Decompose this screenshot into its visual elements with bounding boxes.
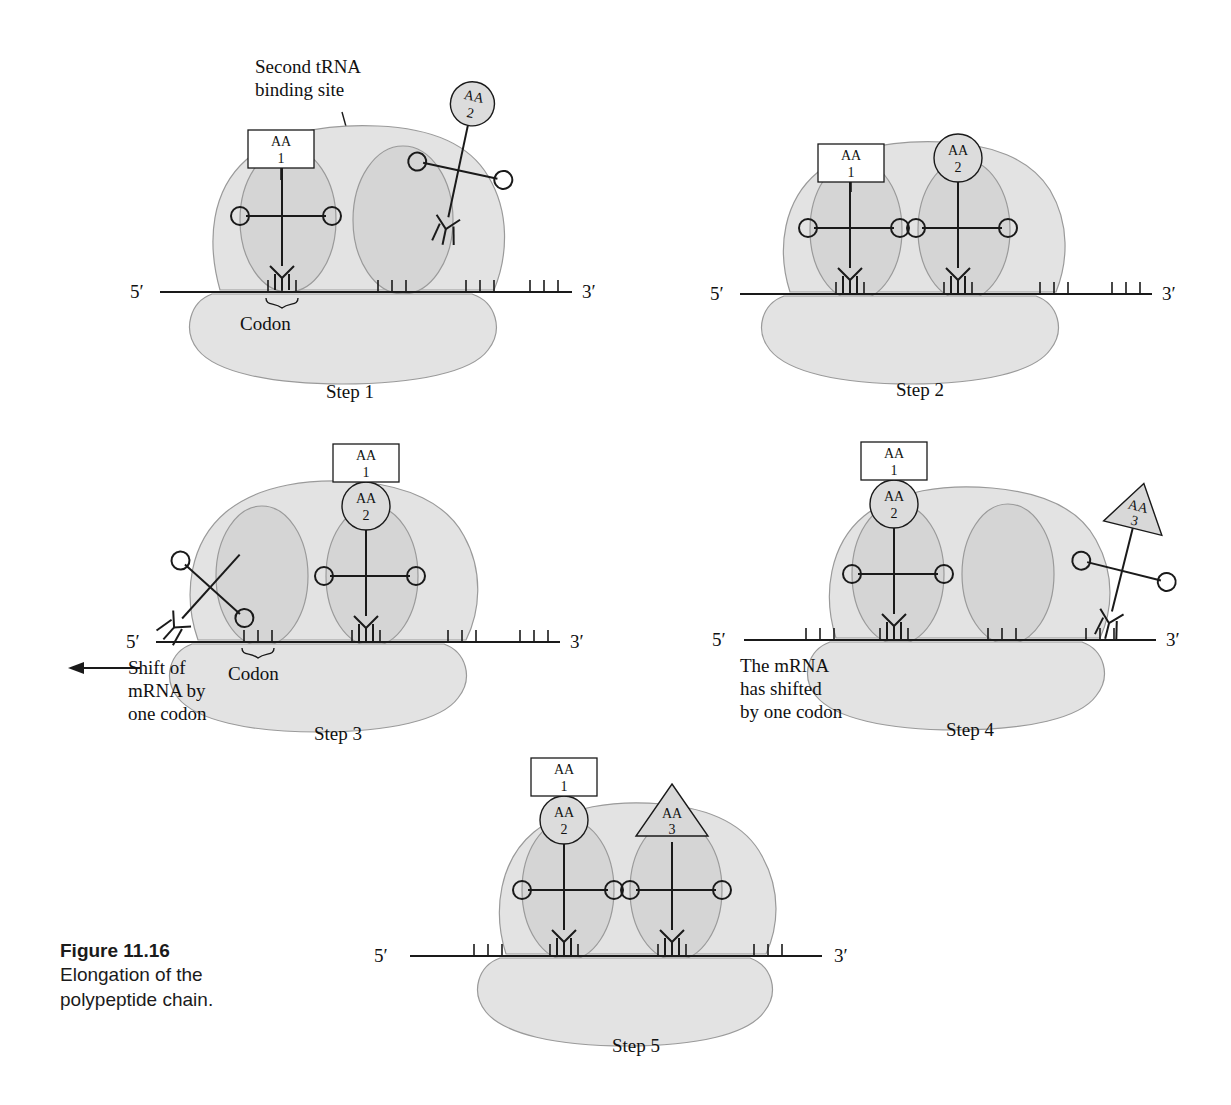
panel-step2: AA 1 AA 2 5′ 3′ Step 2 [700, 130, 1220, 410]
ribosome-small-subunit [190, 294, 497, 384]
panel-step4: AA 2 AA 1 AA 3 5′ 3′ The mRNA [700, 450, 1220, 750]
svg-text:AA: AA [356, 491, 377, 506]
trna-binding-site-second [353, 146, 453, 294]
svg-text:AA: AA [662, 806, 683, 821]
ribosome-small-subunit [762, 296, 1059, 384]
amino-acid-2-circle: AA 2 [870, 480, 918, 528]
svg-text:1: 1 [891, 463, 898, 478]
svg-text:2: 2 [891, 506, 898, 521]
step-label-5: Step 5 [576, 1034, 696, 1057]
svg-text:2: 2 [955, 160, 962, 175]
svg-text:AA: AA [884, 446, 905, 461]
ribosome-small-subunit [808, 642, 1105, 730]
mrna-5-prime-label: 5′ [130, 280, 144, 303]
figure-caption-text: Elongation of thepolypeptide chain. [60, 962, 360, 1012]
mrna-3-prime-label: 3′ [834, 944, 848, 967]
codon-label-step3: Codon [228, 662, 279, 685]
amino-acid-2-circle: AA 2 [934, 134, 982, 182]
svg-text:AA: AA [554, 762, 575, 777]
annotation-mrna-has-shifted: The mRNAhas shiftedby one codon [740, 654, 842, 724]
svg-text:1: 1 [848, 165, 855, 180]
svg-text:2: 2 [561, 822, 568, 837]
figure-number: Figure 11.16 [60, 940, 360, 962]
svg-text:3: 3 [669, 822, 676, 837]
ribosome-small-subunit [170, 644, 467, 732]
panel-step5: AA 2 AA 1 AA 3 5′ 3′ Step 5 [350, 770, 850, 1070]
svg-text:AA: AA [948, 143, 969, 158]
svg-text:1: 1 [561, 779, 568, 794]
mrna-3-prime-label: 3′ [570, 630, 584, 653]
annotation-shift-of-mrna: Shift ofmRNA byone codon [128, 656, 207, 726]
step-label-3: Step 3 [278, 722, 398, 745]
trna-binding-site-a [240, 148, 336, 292]
panel-step1: Second tRNAbinding site [120, 40, 640, 410]
svg-text:AA: AA [271, 134, 292, 149]
amino-acid-1-box: AA 1 [531, 758, 597, 796]
svg-text:AA: AA [841, 148, 862, 163]
step-label-4: Step 4 [910, 718, 1030, 741]
step-label-2: Step 2 [860, 378, 980, 401]
svg-text:2: 2 [363, 508, 370, 523]
amino-acid-1-box: AA 1 [333, 444, 399, 482]
mrna-5-prime-label: 5′ [712, 628, 726, 651]
mrna-3-prime-label: 3′ [1166, 628, 1180, 651]
step-label-1: Step 1 [290, 380, 410, 403]
trna-binding-site-e [216, 506, 308, 646]
amino-acid-2-circle [446, 78, 498, 130]
amino-acid-1-box: AA 1 [861, 442, 927, 480]
amino-acid-2-circle: AA 2 [342, 482, 390, 530]
figure-caption: Figure 11.16 Elongation of thepolypeptid… [60, 940, 360, 1012]
panel-step3: AA 2 AA 1 5′ 3′ Shift ofmRNA byone codon… [60, 440, 620, 750]
mrna-5-prime-label: 5′ [126, 630, 140, 653]
amino-acid-2-circle: AA 2 [540, 796, 588, 844]
svg-text:AA: AA [884, 489, 905, 504]
svg-text:1: 1 [363, 465, 370, 480]
mrna-3-prime-label: 3′ [1162, 282, 1176, 305]
codon-label-step1: Codon [240, 312, 291, 335]
svg-text:AA: AA [356, 448, 377, 463]
trna-binding-site-second [962, 504, 1054, 644]
mrna-5-prime-label: 5′ [710, 282, 724, 305]
mrna-5-prime-label: 5′ [374, 944, 388, 967]
ribosome-small-subunit [478, 958, 773, 1046]
svg-text:AA: AA [554, 805, 575, 820]
svg-text:1: 1 [278, 151, 285, 166]
mrna-3-prime-label: 3′ [582, 280, 596, 303]
